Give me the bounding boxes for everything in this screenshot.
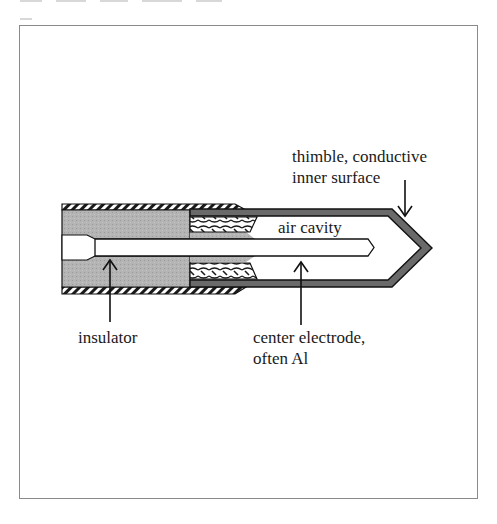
thimble-label-line2: inner surface (292, 167, 380, 188)
air-cavity-label: air cavity (278, 217, 342, 238)
thimble-label-line1: thimble, conductive (292, 146, 427, 167)
insulator-label: insulator (78, 327, 138, 348)
electrode-label-line1: center electrode, (253, 327, 365, 348)
center-electrode (95, 239, 374, 256)
electrode-label-line2: often Al (253, 348, 308, 369)
thimble-arrow (398, 180, 412, 216)
ionization-chamber-diagram (0, 0, 497, 524)
